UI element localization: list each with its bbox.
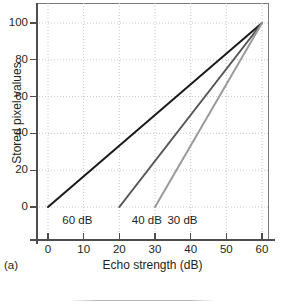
panel-caption: (a) (4, 259, 18, 271)
series-label-40-db: 40 dB (132, 214, 162, 226)
figure-panel-a: 020406080100 0102030405060 60 dB40 dB30 … (0, 0, 284, 307)
y-axis-title: Stored pixel values (10, 28, 24, 198)
x-axis-title: Echo strength (dB) (36, 258, 269, 272)
series-label-60-db: 60 dB (62, 214, 92, 226)
bottom-divider (70, 300, 216, 301)
series-label-30-db: 30 dB (167, 214, 197, 226)
